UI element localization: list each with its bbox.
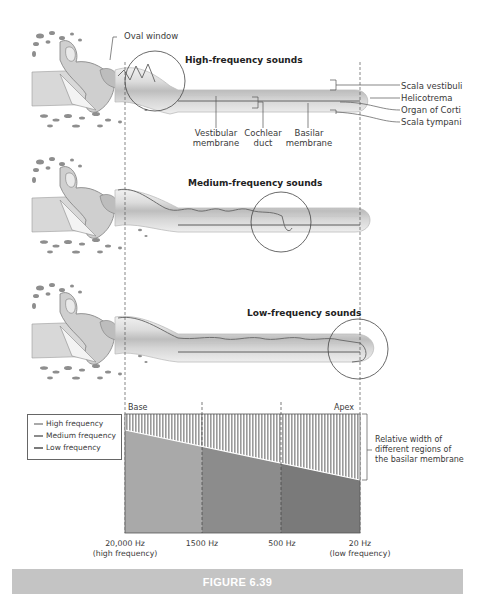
panel-title-high: High-frequency sounds — [185, 55, 303, 65]
chart-legend: High frequency Medium frequency Low freq… — [27, 414, 122, 460]
panel-title-low: Low-frequency sounds — [247, 308, 361, 318]
legend-item-medium: Medium frequency — [34, 431, 116, 440]
basilar-width-chart — [125, 402, 372, 533]
chart-annotation: Relative width of different regions of t… — [375, 435, 464, 465]
tick-20000hz: 20,000 Hz (high frequency) — [85, 539, 165, 559]
label-oval-window: Oval window — [124, 31, 178, 41]
panel-high-frequency — [32, 31, 400, 128]
panel-low-frequency — [32, 283, 388, 380]
figure-caption: FIGURE 6.39 — [203, 576, 272, 588]
label-vestibular-membrane: Vestibular membrane — [190, 128, 242, 148]
legend-swatch-low — [34, 447, 43, 449]
label-basilar-membrane: Basilar membrane — [284, 128, 334, 148]
legend-item-low: Low frequency — [34, 443, 101, 452]
tick-500hz: 500 Hz — [252, 539, 312, 549]
legend-swatch-medium — [34, 435, 43, 437]
legend-item-high: High frequency — [34, 419, 103, 428]
label-apex: Apex — [334, 403, 354, 413]
label-helicotrema: Helicotrema — [401, 93, 453, 103]
panel-title-medium: Medium-frequency sounds — [188, 178, 322, 188]
label-organ-of-corti: Organ of Corti — [401, 105, 461, 115]
label-scala-vestibuli: Scala vestibuli — [401, 81, 462, 91]
panel-medium-frequency — [32, 157, 370, 254]
figure-caption-banner: FIGURE 6.39 — [12, 569, 463, 594]
legend-swatch-high — [34, 423, 43, 425]
label-cochlear-duct: Cochlear duct — [242, 128, 284, 148]
tick-20hz: 20 Hz (low frequency) — [320, 539, 400, 559]
label-scala-tympani: Scala tympani — [401, 117, 462, 127]
tick-1500hz: 1500 Hz — [172, 539, 232, 549]
label-base: Base — [128, 403, 147, 413]
